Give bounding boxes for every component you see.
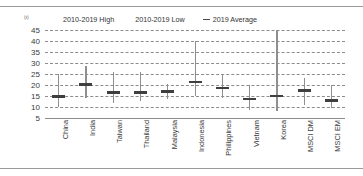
plot-area: 51015202530354045 (45, 30, 345, 118)
average-marker (161, 90, 174, 93)
x-axis-tick-label: Taiwan (116, 120, 124, 143)
y-axis-tick-label: 45 (31, 26, 40, 35)
figure-top-rule (0, 6, 363, 7)
y-axis-tick-label: 40 (31, 37, 40, 46)
high-low-range-bar (304, 78, 305, 104)
legend-item: 2019 Average (203, 15, 257, 24)
x-axis-tick-label: Indonesia (198, 120, 206, 152)
average-marker (79, 83, 92, 86)
gridline (45, 107, 345, 108)
average-marker (298, 89, 311, 92)
chart-legend: 2010-2019 High2010-2019 Low2019 Average (60, 15, 257, 24)
high-low-range-bar (195, 41, 196, 96)
average-marker (216, 87, 229, 90)
legend-item-label: 2010-2019 High (63, 15, 114, 24)
x-axis-tick-label: Thailand (143, 120, 151, 148)
average-marker (52, 95, 65, 98)
figure-container: (x) 2010-2019 High2010-2019 Low2019 Aver… (0, 0, 363, 176)
y-axis-tick-label: 5 (36, 114, 40, 123)
x-axis-tick-label: MSCI EM (334, 120, 342, 152)
y-axis-tick-label: 15 (31, 92, 40, 101)
x-axis-tick-label: MSCI DM (307, 120, 315, 152)
legend-item: 2010-2019 High (60, 15, 114, 24)
x-axis-labels: ChinaIndiaTaiwanThailandMalaysiaIndonesi… (45, 120, 345, 170)
average-marker (107, 91, 120, 94)
y-axis-tick-label: 10 (31, 103, 40, 112)
y-axis-tick-label: 35 (31, 48, 40, 57)
legend-dash-icon (203, 19, 210, 21)
y-axis-tick-label: 20 (31, 81, 40, 90)
average-marker (270, 95, 283, 98)
average-marker (243, 98, 256, 101)
high-low-range-bar (140, 72, 141, 101)
legend-item: 2010-2019 Low (132, 15, 185, 24)
legend-item-label: 2010-2019 Low (135, 15, 185, 24)
x-axis-tick-label: China (62, 120, 70, 139)
gridline (45, 96, 345, 97)
average-marker (134, 91, 147, 94)
x-axis-tick-label: Philippines (225, 120, 233, 156)
high-low-range-bar (276, 30, 277, 111)
x-axis-tick-label: Malaysia (171, 120, 179, 149)
x-axis-baseline (45, 118, 345, 119)
average-marker (189, 81, 202, 84)
y-axis-tick-label: 30 (31, 59, 40, 68)
x-axis-tick-label: India (89, 120, 97, 136)
legend-item-label: 2019 Average (213, 15, 257, 24)
high-low-range-bar (113, 72, 114, 102)
gridline (45, 30, 345, 31)
average-marker (325, 99, 338, 102)
high-low-range-bar (58, 74, 59, 107)
corner-unit-label: (x) (24, 15, 29, 21)
y-axis-tick-label: 25 (31, 70, 40, 79)
x-axis-tick-label: Korea (280, 120, 288, 140)
x-axis-tick-label: Vietnam (253, 120, 261, 147)
high-low-range-bar (331, 85, 332, 108)
